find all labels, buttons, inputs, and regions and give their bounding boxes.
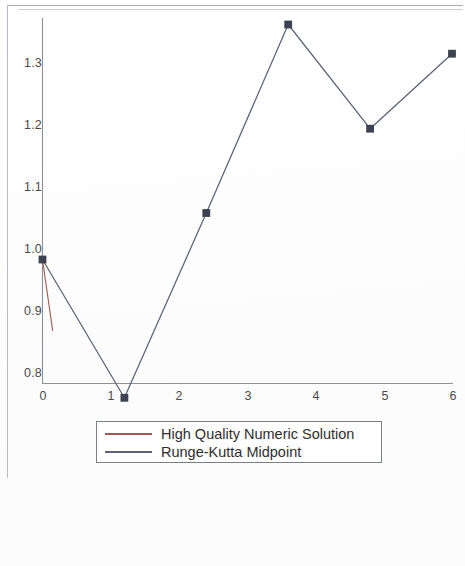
data-point-marker: [121, 394, 129, 402]
chart-legend: High Quality Numeric Solution Runge-Kutt…: [96, 421, 382, 463]
data-point-marker: [39, 256, 47, 264]
legend-label: High Quality Numeric Solution: [161, 425, 354, 443]
legend-label: Runge-Kutta Midpoint: [161, 443, 301, 461]
legend-entry: Runge-Kutta Midpoint: [102, 443, 376, 461]
x-tick-label: 3: [238, 389, 258, 403]
ruler-scale: 0 5 10 15 20: [0, 484, 465, 566]
legend-swatch-high-quality-numeric-solution: [105, 433, 152, 435]
series-line-high-quality-numeric-solution: [43, 260, 53, 331]
series-line-runge-kutta-midpoint: [43, 25, 453, 398]
x-tick-label: 6: [443, 389, 463, 403]
data-point-marker: [284, 21, 292, 29]
legend-entry: High Quality Numeric Solution: [102, 425, 376, 443]
legend-swatch-runge-kutta-midpoint: [105, 451, 152, 453]
data-point-marker: [448, 50, 456, 58]
x-tick-label: 1: [101, 389, 121, 403]
data-point-marker: [202, 209, 210, 217]
plot-area: [0, 0, 465, 410]
x-tick-label: 0: [33, 389, 53, 403]
x-tick-label: 2: [169, 389, 189, 403]
chart-figure: 1.3 1.2 1.1 1.0 0.9 0.8 0 1 2 3 4 5 6 Hi…: [0, 0, 465, 480]
data-point-marker: [366, 125, 374, 133]
x-tick-label: 4: [306, 389, 326, 403]
x-tick-label: 5: [375, 389, 395, 403]
